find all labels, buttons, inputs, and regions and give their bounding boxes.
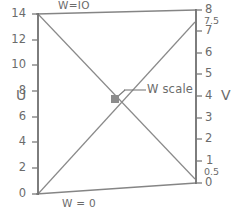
w-scale-callout-label: W scale	[147, 84, 193, 96]
right-tick-label-0: 0	[205, 177, 212, 189]
nomogram-figure: U 14 12 10 8 6 4 2 0 V 8 7.5 7 6 5 4 3 2…	[0, 0, 237, 219]
nomogram-lines	[0, 0, 237, 219]
right-tick-label-4: 4	[205, 90, 212, 102]
left-tick-label-12: 12	[2, 34, 26, 46]
right-tick-label-8: 8	[205, 4, 212, 16]
line-w-equals-0	[36, 183, 196, 194]
left-tick-label-4: 4	[2, 136, 26, 148]
right-tick-label-7: 7	[205, 25, 212, 37]
left-tick-label-10: 10	[2, 59, 26, 71]
right-axis-name: V	[221, 88, 231, 102]
right-tick-label-1: 1	[206, 155, 213, 167]
w-scale-marker	[111, 95, 119, 103]
right-tick-label-6: 6	[205, 47, 212, 59]
left-tick-label-2: 2	[2, 162, 26, 174]
top-edge-label: W=IO	[58, 0, 90, 11]
left-tick-label-0: 0	[2, 188, 26, 200]
diagonal-ascending	[38, 22, 195, 194]
left-tick-label-6: 6	[2, 111, 26, 123]
right-tick-label-5: 5	[205, 68, 212, 80]
right-tick-label-3: 3	[205, 112, 212, 124]
left-tick-label-14: 14	[2, 8, 26, 20]
bottom-edge-label: W = 0	[62, 198, 96, 209]
right-tick-label-2: 2	[205, 133, 212, 145]
left-tick-label-8: 8	[2, 85, 26, 97]
